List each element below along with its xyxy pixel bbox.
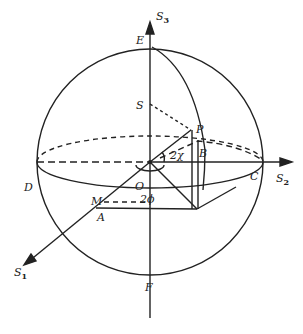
angle-2phi-label: 2ϕ <box>139 193 155 206</box>
angle-2chi-label: 2χ <box>169 149 185 162</box>
point-b-label: B <box>198 147 207 160</box>
point-f-label: F <box>144 281 153 294</box>
foot-c <box>197 187 236 209</box>
s3-arrow-icon <box>146 22 154 34</box>
poincare-sphere-diagram: S3 S2 S1 E S P B D O C M A F 2χ 2ϕ <box>0 0 303 334</box>
point-m-label: M <box>90 195 103 208</box>
s3-label: S3 <box>156 10 170 25</box>
point-p-label: P <box>195 123 204 136</box>
point-a-label: A <box>96 211 105 224</box>
point-o-label: O <box>135 180 144 193</box>
a-foot <box>96 208 197 209</box>
s1-arrow-icon <box>24 254 36 265</box>
s1-axis <box>28 162 150 262</box>
s1-label: S1 <box>14 266 27 281</box>
origin-dot <box>148 160 152 164</box>
point-s-label: S <box>136 99 144 112</box>
s-p-line <box>150 104 191 130</box>
o-foot <box>150 162 197 209</box>
s2-label: S2 <box>276 172 289 187</box>
point-c-label: C <box>250 170 259 183</box>
s2-arrow-icon <box>280 158 292 166</box>
point-d-label: D <box>23 181 33 194</box>
point-e-label: E <box>135 34 144 47</box>
